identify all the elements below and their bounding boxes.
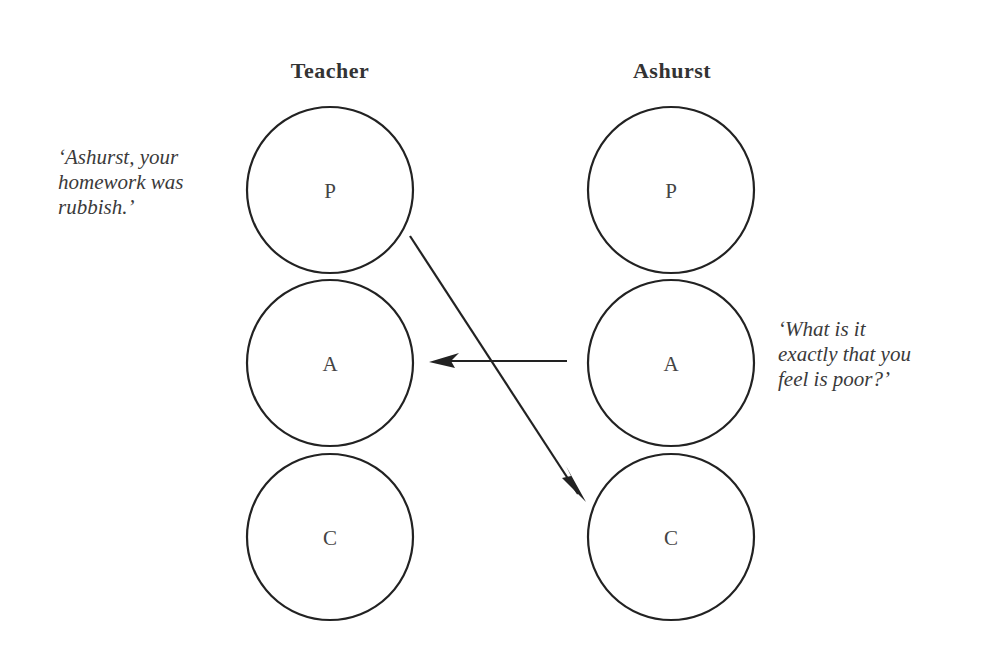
teacher-adult-label: A (322, 352, 337, 377)
teacher-column-title: Teacher (291, 58, 369, 84)
ashurst-quote-line-1: ‘What is it (778, 317, 911, 342)
teacher-quote-line-3: rubbish.’ (58, 195, 183, 220)
ashurst-column-title: Ashurst (633, 58, 711, 84)
arrow-teacher-parent-to-ashurst-child (410, 236, 586, 502)
teacher-parent-label: P (324, 179, 336, 204)
teacher-quote-line-2: homework was (58, 170, 183, 195)
ashurst-quote: ‘What is it exactly that you feel is poo… (778, 317, 911, 392)
transaction-diagram: Teacher Ashurst P A C P A C ‘Ashurst, yo… (0, 0, 997, 653)
ashurst-adult-label: A (663, 352, 678, 377)
ashurst-child-label: C (664, 526, 678, 551)
teacher-quote-line-1: ‘Ashurst, your (58, 145, 183, 170)
ashurst-parent-label: P (665, 179, 677, 204)
ashurst-quote-line-2: exactly that you (778, 342, 911, 367)
teacher-child-label: C (323, 526, 337, 551)
arrow-ashurst-adult-to-teacher-adult (429, 353, 567, 368)
teacher-quote: ‘Ashurst, your homework was rubbish.’ (58, 145, 183, 220)
ashurst-quote-line-3: feel is poor?’ (778, 367, 911, 392)
